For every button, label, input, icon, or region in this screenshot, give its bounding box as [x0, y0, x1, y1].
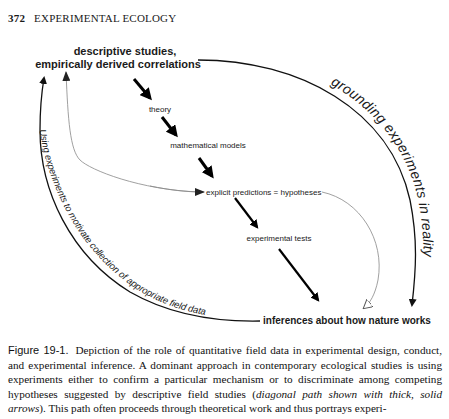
node-tests: experimental tests	[247, 234, 312, 243]
node-predictions: explicit predictions = hypotheses	[206, 188, 321, 197]
node-inferences: inferences about how nature works	[263, 315, 431, 326]
caption-text-2: ). This path often proceeds through theo…	[39, 402, 386, 414]
thick-arrow-to-tests	[235, 198, 257, 227]
thick-arrow-to-inferences	[279, 249, 318, 300]
thick-arrow-to-theory	[134, 79, 150, 98]
arc-label-motivate: Using experiments to motivate collection…	[37, 128, 207, 317]
node-math-models: mathematical models	[170, 141, 246, 150]
node-descriptive-line1: descriptive studies,	[74, 45, 177, 57]
figure-caption: Figure 19-1. Depiction of the role of qu…	[8, 343, 442, 416]
arc-grounding	[198, 60, 416, 305]
thick-arrow-to-models	[162, 117, 176, 135]
thin-arrow-up-to-descriptive	[66, 72, 200, 192]
figure-diagram: descriptive studies, empirically derived…	[0, 0, 449, 340]
arc-label-grounding: grounding experiments in reality	[329, 73, 437, 258]
thick-arrow-to-predictions	[199, 158, 212, 176]
figure-label: Figure 19-1.	[8, 344, 68, 356]
thin-arrow-predictions-to-inferences	[322, 192, 379, 308]
arc-motivate	[40, 78, 260, 321]
thin-arrow-to-predictions	[150, 186, 204, 192]
node-descriptive-line2: empirically derived correlations	[35, 58, 201, 70]
node-theory: theory	[149, 105, 171, 114]
